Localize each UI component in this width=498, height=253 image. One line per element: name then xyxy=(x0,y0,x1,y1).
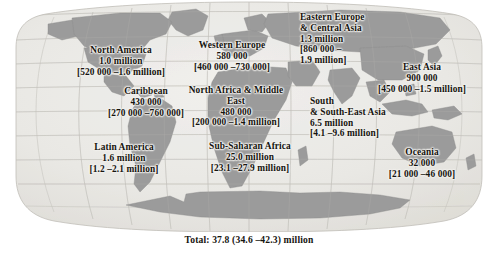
region-range: [450 000 –1.5 million] xyxy=(352,84,492,95)
region-label-east-asia: East Asia 900 000 [450 000 –1.5 million] xyxy=(352,62,492,94)
region-value: 1.0 million xyxy=(60,56,182,67)
region-label-sub-saharan-africa: Sub-Saharan Africa 25.0 million [23.1 –2… xyxy=(186,141,314,173)
region-label-oceania: Oceania 32 000 [21 000 –46 000] xyxy=(352,147,492,179)
region-value: 580 000 xyxy=(168,51,296,62)
region-value: 25.0 million xyxy=(186,152,314,163)
region-name-line2: & Central Asia xyxy=(300,23,384,34)
world-map-figure: North America 1.0 million [520 000 –1.6 … xyxy=(0,0,498,253)
region-value: 480 000 xyxy=(172,107,300,118)
region-range: [460 000 –730 000] xyxy=(168,62,296,73)
region-range: [520 000 –1.6 million] xyxy=(60,67,182,78)
region-value: 900 000 xyxy=(352,73,492,84)
region-range: [860 000 – xyxy=(300,44,384,55)
region-name: Latin America xyxy=(62,142,186,153)
region-name: Sub-Saharan Africa xyxy=(186,141,314,152)
region-value: 1.3 million xyxy=(300,34,384,45)
region-name-line2: East xyxy=(172,96,300,107)
region-range: [4.1 –9.6 million] xyxy=(310,128,416,139)
region-label-latin-america: Latin America 1.6 million [1.2 –2.1 mill… xyxy=(62,142,186,174)
region-range: [1.2 –2.1 million] xyxy=(62,164,186,175)
region-value: 6.5 million xyxy=(310,118,416,129)
total-caption: Total: 37.8 (34.6 –42.3) million xyxy=(0,234,498,245)
region-label-south-south-east-asia: South & South-East Asia 6.5 million [4.1… xyxy=(310,96,416,139)
region-value: 32 000 xyxy=(352,158,492,169)
region-range: [23.1 –27.9 million] xyxy=(186,163,314,174)
region-name: South xyxy=(310,96,416,107)
region-label-north-africa-middle-east: North Africa & Middle East 480 000 [200 … xyxy=(172,85,300,128)
region-name: Western Europe xyxy=(168,40,296,51)
region-name: North Africa & Middle xyxy=(172,85,300,96)
region-label-north-america: North America 1.0 million [520 000 –1.6 … xyxy=(60,45,182,77)
region-name: Eastern Europe xyxy=(300,12,384,23)
region-range: [200 000 –1.4 million] xyxy=(172,117,300,128)
region-name: Oceania xyxy=(352,147,492,158)
region-name-line2: & South-East Asia xyxy=(310,107,416,118)
region-label-eastern-europe-central-asia: Eastern Europe & Central Asia 1.3 millio… xyxy=(300,12,384,66)
region-name: East Asia xyxy=(352,62,492,73)
region-range: [21 000 –46 000] xyxy=(352,169,492,180)
region-value: 1.6 million xyxy=(62,153,186,164)
region-name: North America xyxy=(60,45,182,56)
region-label-western-europe: Western Europe 580 000 [460 000 –730 000… xyxy=(168,40,296,72)
